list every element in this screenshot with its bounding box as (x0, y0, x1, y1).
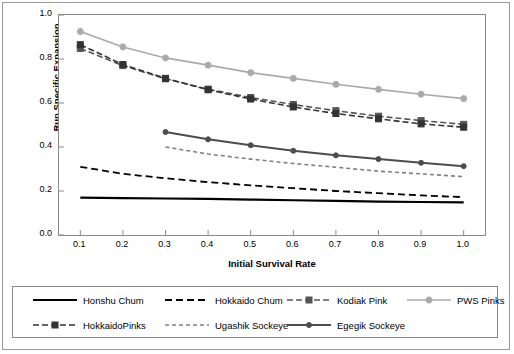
y-tick-label: 0.6 (22, 96, 52, 106)
legend-line-sample (285, 316, 333, 334)
plot-area (58, 14, 486, 236)
legend-line-sample (285, 291, 333, 309)
legend-swatch (31, 316, 79, 334)
legend-swatch (163, 291, 211, 309)
legend: Honshu ChumHokkaido ChumKodiak PinkPWS P… (12, 286, 498, 338)
legend-swatch (285, 291, 333, 309)
x-tick-label: 0.2 (107, 239, 137, 249)
legend-swatch (31, 291, 79, 309)
x-tick-label: 0.8 (363, 239, 393, 249)
legend-swatch (405, 291, 453, 309)
legend-line-sample (31, 316, 79, 334)
legend-row-2: HokkaidoPinksUgashik SockeyeEgegik Socke… (13, 312, 499, 338)
y-tick-label: 0.2 (22, 184, 52, 194)
x-tick-label: 0.9 (405, 239, 435, 249)
legend-line-sample (163, 316, 211, 334)
chart-screenshot: Run Specific Expansion 0.00.20.40.60.81.… (0, 0, 514, 354)
legend-item-hokkaido-chum: Hokkaido Chum (163, 287, 283, 313)
x-tick-label: 0.3 (150, 239, 180, 249)
legend-item-pws-pinks: PWS Pinks (405, 287, 505, 313)
legend-line-sample (163, 291, 211, 309)
x-tick-label: 0.7 (320, 239, 350, 249)
y-tick-label: 0.8 (22, 52, 52, 62)
x-tick-label: 0.4 (192, 239, 222, 249)
legend-swatch (285, 316, 333, 334)
legend-label: Ugashik Sockeye (215, 320, 288, 331)
legend-label: Honshu Chum (83, 295, 144, 306)
legend-item-kodiak-pink: Kodiak Pink (285, 287, 387, 313)
legend-label: Egegik Sockeye (337, 320, 405, 331)
legend-swatch (163, 316, 211, 334)
x-tick-label: 0.5 (235, 239, 265, 249)
legend-label: PWS Pinks (457, 295, 505, 306)
legend-line-sample (405, 291, 453, 309)
x-tick-label: 0.1 (64, 239, 94, 249)
legend-item-honshu-chum: Honshu Chum (31, 287, 144, 313)
x-axis-label: Initial Survival Rate (58, 258, 486, 269)
chart-svg (59, 15, 485, 235)
y-tick-label: 0.0 (22, 228, 52, 238)
legend-item-egegik-sockeye: Egegik Sockeye (285, 312, 405, 338)
y-tick-label: 0.4 (22, 140, 52, 150)
legend-label: Kodiak Pink (337, 295, 387, 306)
y-tick-label: 1.0 (22, 8, 52, 18)
x-tick-label: 0.6 (277, 239, 307, 249)
x-tick-label: 1.0 (448, 239, 478, 249)
legend-item-ugashik-sockeye: Ugashik Sockeye (163, 312, 288, 338)
legend-item-hokkaidopinks: HokkaidoPinks (31, 312, 146, 338)
legend-row-1: Honshu ChumHokkaido ChumKodiak PinkPWS P… (13, 287, 499, 313)
legend-label: HokkaidoPinks (83, 320, 146, 331)
legend-line-sample (31, 291, 79, 309)
legend-label: Hokkaido Chum (215, 295, 283, 306)
